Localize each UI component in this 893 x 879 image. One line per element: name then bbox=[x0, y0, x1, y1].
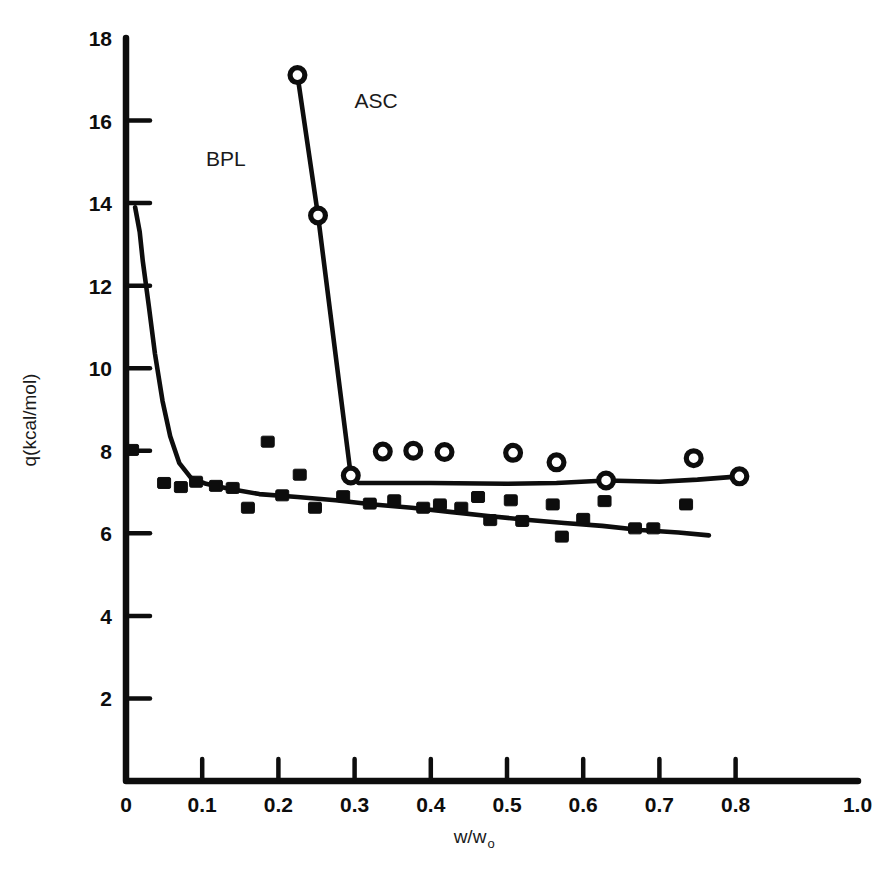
marker-bpl-22 bbox=[555, 531, 568, 542]
y-tick-label-2: 14 bbox=[89, 192, 113, 215]
y-axis-tick-labels: 18161412108642 bbox=[89, 27, 113, 710]
marker-bpl-20 bbox=[516, 515, 529, 526]
marker-asc-9 bbox=[686, 451, 701, 466]
marker-bpl-1 bbox=[158, 477, 171, 488]
x-tick-label-1: 0.1 bbox=[188, 793, 218, 816]
marker-bpl-2 bbox=[174, 482, 187, 493]
x-tick-label-9: 1.0 bbox=[843, 793, 872, 816]
marker-asc-3 bbox=[375, 444, 390, 459]
marker-bpl-27 bbox=[680, 499, 693, 510]
marker-bpl-25 bbox=[629, 523, 642, 534]
marker-bpl-13 bbox=[388, 495, 401, 506]
marker-bpl-15 bbox=[433, 499, 446, 510]
y-tick-label-4: 10 bbox=[89, 357, 112, 380]
y-tick-label-1: 16 bbox=[89, 110, 112, 133]
marker-asc-1 bbox=[311, 208, 326, 223]
marker-bpl-10 bbox=[308, 502, 321, 513]
marker-bpl-23 bbox=[577, 513, 590, 524]
y-tick-label-3: 12 bbox=[89, 275, 112, 298]
y-axis-tick-marks bbox=[128, 121, 150, 699]
annotation-asc: ASC bbox=[355, 89, 398, 112]
x-tick-label-3: 0.3 bbox=[340, 793, 369, 816]
x-axis-tick-marks bbox=[202, 759, 735, 779]
marker-bpl-21 bbox=[546, 499, 559, 510]
x-axis-title: w/w bbox=[453, 826, 487, 847]
x-axis-title-subscript: o bbox=[488, 836, 495, 851]
marker-bpl-16 bbox=[455, 502, 468, 513]
x-axis-tick-labels: 00.10.20.30.40.50.60.70.81.0 bbox=[120, 793, 872, 816]
x-tick-label-7: 0.7 bbox=[645, 793, 674, 816]
figure-canvas: 00.10.20.30.40.50.60.70.81.0 18161412108… bbox=[0, 0, 893, 879]
marker-bpl-9 bbox=[293, 469, 306, 480]
marker-bpl-11 bbox=[337, 491, 350, 502]
x-tick-label-2: 0.2 bbox=[264, 793, 293, 816]
marker-bpl-12 bbox=[363, 498, 376, 509]
marker-bpl-5 bbox=[226, 482, 239, 493]
x-tick-label-6: 0.6 bbox=[569, 793, 598, 816]
y-tick-label-6: 6 bbox=[100, 522, 112, 545]
marker-bpl-8 bbox=[276, 490, 289, 501]
marker-asc-2 bbox=[343, 468, 358, 483]
y-tick-label-7: 4 bbox=[100, 605, 112, 628]
y-tick-label-0: 18 bbox=[89, 27, 113, 50]
x-tick-label-8: 0.8 bbox=[721, 793, 751, 816]
marker-bpl-3 bbox=[190, 476, 203, 487]
marker-asc-6 bbox=[506, 445, 521, 460]
y-tick-label-5: 8 bbox=[100, 440, 112, 463]
marker-asc-5 bbox=[437, 445, 452, 460]
annotation-bpl: BPL bbox=[206, 147, 246, 170]
marker-asc-8 bbox=[599, 473, 614, 488]
series-curves bbox=[135, 75, 739, 535]
marker-bpl-18 bbox=[484, 515, 497, 526]
marker-bpl-26 bbox=[647, 523, 660, 534]
curve-asc bbox=[297, 75, 739, 484]
chart-plot: 00.10.20.30.40.50.60.70.81.0 18161412108… bbox=[0, 0, 893, 879]
marker-bpl-0 bbox=[126, 444, 139, 455]
marker-asc-10 bbox=[732, 469, 747, 484]
y-axis-title: q(kcal/mol) bbox=[19, 374, 40, 467]
marker-bpl-24 bbox=[598, 496, 611, 507]
marker-asc-0 bbox=[290, 68, 305, 83]
y-tick-label-8: 2 bbox=[100, 687, 112, 710]
marker-asc-7 bbox=[549, 455, 564, 470]
marker-bpl-14 bbox=[417, 502, 430, 513]
x-tick-label-0: 0 bbox=[120, 793, 132, 816]
marker-bpl-7 bbox=[261, 436, 274, 447]
marker-bpl-4 bbox=[209, 480, 222, 491]
series-markers bbox=[126, 68, 747, 542]
marker-bpl-17 bbox=[472, 491, 485, 502]
x-tick-label-4: 0.4 bbox=[416, 793, 446, 816]
marker-bpl-6 bbox=[241, 502, 254, 513]
x-tick-label-5: 0.5 bbox=[492, 793, 522, 816]
marker-asc-4 bbox=[406, 443, 421, 458]
marker-bpl-19 bbox=[504, 495, 517, 506]
